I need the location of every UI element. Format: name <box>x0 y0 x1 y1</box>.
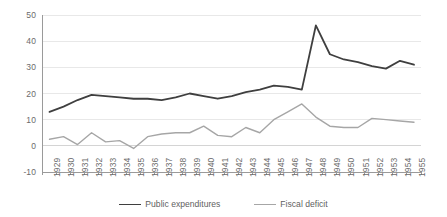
x-axis-tick-label: 1933 <box>109 158 118 177</box>
x-axis-tick-label: 1953 <box>390 158 399 177</box>
x-axis-tick-label: 1949 <box>333 158 342 177</box>
x-axis-tick-label: 1938 <box>179 158 188 177</box>
x-axis-tick-label: 1940 <box>207 158 216 177</box>
x-axis-tick-label: 1954 <box>404 158 413 177</box>
x-axis-tick-label: 1932 <box>95 158 104 177</box>
x-axis-tick-label: 1934 <box>123 158 132 177</box>
x-axis-tick-label: 1939 <box>193 158 202 177</box>
x-axis-tick-label: 1943 <box>249 158 258 177</box>
x-axis-tick-label: 1946 <box>291 158 300 177</box>
x-axis-tick-label: 1947 <box>305 158 314 177</box>
x-axis-tick-label: 1952 <box>376 158 385 177</box>
x-axis-tick-labels: 1929193019311932193319341935193619371938… <box>0 0 447 217</box>
x-axis-tick-label: 1945 <box>277 158 286 177</box>
x-axis-tick-label: 1930 <box>67 158 76 177</box>
x-axis-tick-label: 1936 <box>151 158 160 177</box>
x-axis-tick-label: 1935 <box>137 158 146 177</box>
x-axis-tick-label: 1951 <box>362 158 371 177</box>
x-axis-tick-label: 1955 <box>418 158 427 177</box>
legend-item[interactable]: Fiscal deficit <box>254 200 327 209</box>
chart-legend: Public expendituresFiscal deficit <box>0 196 447 212</box>
x-axis-tick-label: 1948 <box>319 158 328 177</box>
x-axis-tick-label: 1941 <box>221 158 230 177</box>
x-axis-tick-label: 1942 <box>235 158 244 177</box>
x-axis-tick-label: 1950 <box>347 158 356 177</box>
x-axis-tick-label: 1937 <box>165 158 174 177</box>
legend-item[interactable]: Public expenditures <box>119 200 220 209</box>
x-axis-tick-label: 1931 <box>81 158 90 177</box>
chart-container: 50403020100-10 1929193019311932193319341… <box>0 0 447 217</box>
legend-line-swatch <box>119 204 141 205</box>
legend-label: Public expenditures <box>145 200 220 209</box>
x-axis-tick-label: 1929 <box>53 158 62 177</box>
legend-line-swatch <box>254 204 276 205</box>
legend-label: Fiscal deficit <box>280 200 327 209</box>
x-axis-tick-label: 1944 <box>263 158 272 177</box>
